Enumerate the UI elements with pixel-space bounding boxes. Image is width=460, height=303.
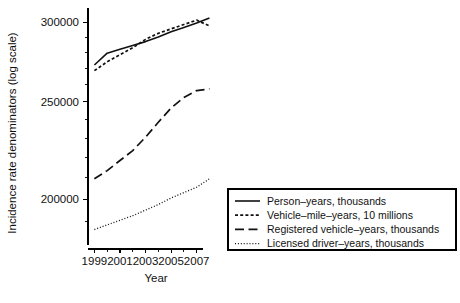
x-axis-title: Year xyxy=(144,272,167,284)
y-tick-label: 300000 xyxy=(41,16,79,28)
y-tick-label: 250000 xyxy=(41,96,79,108)
y-axis: 300000250000200000 xyxy=(41,8,88,245)
chart-legend: Person–years, thousandsVehicle–mile–year… xyxy=(228,189,456,250)
legend-label-0: Person–years, thousands xyxy=(267,195,386,207)
x-tick-label: 2007 xyxy=(184,255,210,267)
x-tick-label: 2003 xyxy=(133,255,159,267)
x-tick-label: 2001 xyxy=(107,255,133,267)
x-tick-label: 2005 xyxy=(158,255,184,267)
legend-label-3: Licensed driver–years, thousands xyxy=(267,237,424,249)
series-line-1 xyxy=(94,20,209,71)
x-axis: 19992001200320052007 xyxy=(82,249,210,267)
series-lines xyxy=(94,18,209,230)
y-tick-label: 200000 xyxy=(41,193,79,205)
x-tick-label: 1999 xyxy=(82,255,108,267)
y-axis-title: Incidence rate denominators (log scale) xyxy=(6,32,18,234)
incidence-rate-denominators-line-chart: 300000250000200000 19992001200320052007 … xyxy=(0,0,460,303)
legend-label-2: Registered vehicle–years, thousands xyxy=(267,223,439,235)
series-line-0 xyxy=(94,18,209,65)
series-line-3 xyxy=(94,179,209,230)
legend-label-1: Vehicle–mile–years, 10 millions xyxy=(267,209,413,221)
chart-container: 300000250000200000 19992001200320052007 … xyxy=(0,0,460,303)
series-line-2 xyxy=(94,89,209,179)
